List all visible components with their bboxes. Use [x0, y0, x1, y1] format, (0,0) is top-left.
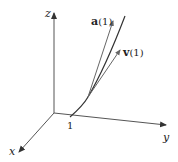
- x-axis-label: x: [9, 145, 16, 158]
- space-curve: [70, 16, 125, 117]
- acceleration-vector: [88, 21, 113, 97]
- x-axis: [19, 113, 54, 152]
- diagram-canvas: z y x 1 a(1) v(1): [0, 0, 178, 162]
- acceleration-vector-label: a(1): [91, 15, 112, 28]
- tick-label-1: 1: [67, 120, 73, 131]
- y-axis-label: y: [162, 131, 170, 144]
- z-axis-label: z: [44, 7, 51, 20]
- velocity-vector-label: v(1): [122, 46, 144, 59]
- velocity-vector: [88, 50, 120, 97]
